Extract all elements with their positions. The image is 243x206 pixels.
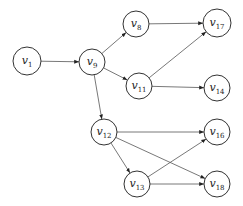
node-v17: v17 [203,9,231,37]
graph-canvas: v1v9v8v17v11v14v12v16v13v18 [0,0,243,206]
edge-v13-v16 [148,139,206,177]
edge-v1-v9 [41,61,79,62]
edge-v8-v17 [149,23,203,24]
node-v13: v13 [124,171,150,197]
node-v9: v9 [79,49,105,75]
edge-v11-v17 [149,32,206,78]
edge-v9-v8 [102,32,126,53]
node-v12: v12 [91,119,117,145]
edges [41,23,206,184]
node-v11: v11 [126,73,152,99]
node-v16: v16 [204,119,230,145]
edge-v11-v14 [152,86,204,87]
nodes: v1v9v8v17v11v14v12v16v13v18 [13,9,231,197]
node-v1: v1 [13,47,41,75]
node-v14: v14 [204,75,230,101]
node-v18: v18 [204,171,230,197]
edge-v9-v11 [104,68,128,80]
edge-v9-v12 [94,75,102,119]
node-v8: v8 [123,11,149,37]
edge-v12-v13 [111,143,130,173]
